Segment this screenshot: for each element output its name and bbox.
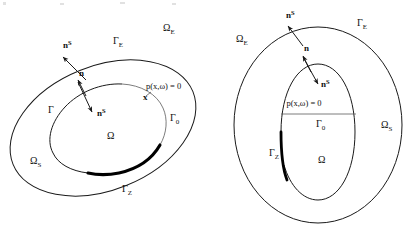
diagram-canvas: ΩE ΓE nS n nS Γ Ω ΩS Γ0 — [0, 0, 416, 237]
right-panel: ΩE ΓE nS n nS Γ0 ΩS ΓZ Ω — [234, 9, 402, 223]
inner-boundary-gamma-lower-arc — [284, 132, 355, 200]
gamma-0-label: Γ0 — [316, 118, 326, 132]
n-s-outer-label: nS — [286, 9, 295, 20]
inner-boundary-gamma-arc — [50, 84, 122, 173]
inner-boundary-gamma-z-arc — [88, 145, 160, 175]
omega-e-label: ΩE — [236, 33, 248, 47]
left-panel: ΩE ΓE nS n nS Γ Ω ΩS Γ0 — [0, 22, 216, 222]
gamma-0-label: Γ0 — [170, 112, 180, 126]
gamma-z-label: ΓZ — [269, 147, 279, 161]
n-s-inner-label: nS — [321, 78, 330, 89]
gamma-label: Γ — [48, 104, 54, 115]
outer-boundary-gamma-e — [0, 34, 216, 222]
gamma-e-label: ΓE — [357, 17, 367, 31]
gamma-z-label: ΓZ — [122, 183, 132, 197]
pressure-equation-right: p(x,ω) = 0 — [286, 98, 321, 108]
n-inner-label: n — [304, 43, 309, 53]
figure-container: ΩE ΓE nS n nS Γ Ω ΩS Γ0 — [0, 0, 416, 237]
normal-vector-arrow-n-s-inner — [78, 82, 92, 112]
scan-speck — [60, 3, 64, 5]
inner-boundary-gamma-z-arc — [281, 132, 287, 180]
n-s-outer-label: nS — [63, 39, 72, 50]
n-s-inner-label: nS — [97, 107, 106, 118]
omega-e-label: ΩE — [163, 22, 175, 36]
omega-s-label: ΩS — [381, 119, 392, 133]
omega-label: Ω — [107, 130, 114, 141]
scan-speck — [3, 2, 6, 5]
omega-label: Ω — [318, 154, 325, 165]
omega-s-label: ΩS — [30, 155, 41, 169]
n-inner-label: n — [79, 68, 84, 78]
gamma-e-label: ΓE — [113, 35, 123, 49]
scan-speck — [172, 3, 176, 5]
point-x-label: x — [143, 92, 148, 102]
normal-vector-arrow-n-s-inner — [303, 57, 318, 84]
scan-speck — [120, 2, 125, 4]
pressure-equation-left: p(x,ω) = 0 — [146, 81, 181, 91]
